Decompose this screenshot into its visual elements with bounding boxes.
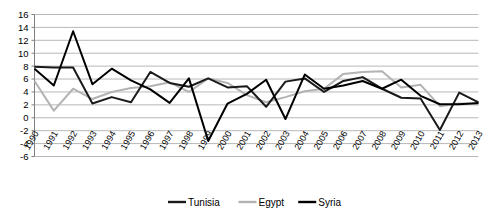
x-axis-tick-labels: 1990199119921993199419951996199719981999… (22, 129, 485, 151)
x-tick-label: 2000 (215, 129, 234, 151)
y-tick-label: -6 (20, 151, 28, 162)
legend-label-syria: Syria (318, 197, 341, 208)
x-tick-label: 1993 (80, 129, 99, 151)
y-tick-label: 8 (23, 61, 28, 72)
x-tick-label: 2006 (331, 129, 350, 151)
chart-legend: TunisiaEgyptSyria (168, 197, 341, 208)
x-tick-label: 1994 (99, 129, 118, 151)
x-tick-label: 2012 (447, 129, 466, 151)
x-tick-label: 2003 (273, 129, 292, 151)
x-tick-label: 2010 (408, 129, 427, 151)
x-tick-label: 1995 (119, 129, 138, 151)
x-tick-label: 2002 (254, 129, 273, 151)
legend-label-egypt: Egypt (258, 197, 284, 208)
x-tick-label: 1998 (176, 129, 195, 151)
x-tick-label: 2008 (370, 129, 389, 151)
y-tick-label: 4 (23, 86, 28, 97)
x-tick-label: 2004 (292, 129, 311, 151)
x-tick-label: 1997 (157, 129, 176, 151)
y-tick-label: 12 (18, 35, 29, 46)
line-chart: 1614121086420-2-4-6 19901991199219931994… (0, 0, 488, 221)
chart-canvas: 1614121086420-2-4-6 19901991199219931994… (0, 0, 488, 221)
data-series (35, 31, 479, 141)
x-tick-label: 1996 (138, 129, 157, 151)
x-tick-label: 2005 (312, 129, 331, 151)
x-tick-label: 2011 (428, 129, 446, 151)
y-tick-label: 10 (18, 48, 29, 59)
x-tick-label: 1992 (61, 129, 80, 151)
y-tick-label: 2 (23, 99, 28, 110)
x-tick-label: 2007 (350, 129, 369, 151)
x-tick-label: 2001 (234, 129, 253, 151)
x-tick-label: 2009 (389, 129, 408, 151)
legend-label-tunisia: Tunisia (188, 197, 220, 208)
x-tick-label: 2013 (466, 129, 485, 151)
y-tick-label: 6 (23, 73, 28, 84)
y-tick-label: 16 (18, 9, 29, 20)
y-tick-label: -2 (20, 125, 28, 136)
y-tick-label: 14 (18, 22, 29, 33)
x-tick-label: 1991 (41, 129, 60, 151)
y-tick-label: 0 (23, 112, 28, 123)
